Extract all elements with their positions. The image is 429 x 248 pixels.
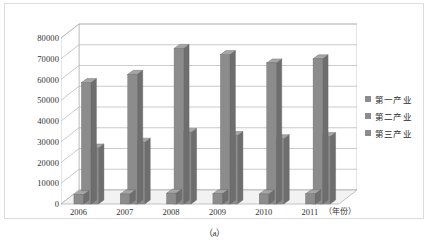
chart-frame: 0100002000030000400005000060000700008000…	[4, 3, 424, 219]
legend-swatch-icon	[365, 96, 371, 102]
legend-item-label: 第二产业	[375, 110, 412, 122]
bar	[267, 59, 282, 204]
y-axis-tick-label: 60000	[11, 76, 59, 84]
legend-item[interactable]: 第三产业	[365, 124, 429, 141]
y-axis-tick-label: 70000	[11, 55, 59, 63]
x-axis-tick-label: 2008	[163, 207, 180, 217]
bar	[220, 51, 235, 204]
bar	[167, 189, 182, 204]
y-axis-tick-label: 80000	[11, 34, 59, 42]
legend-item-label: 第三产业	[375, 127, 412, 139]
x-axis-tick-labels: 200620072008200920102011（年份）	[61, 207, 371, 223]
y-axis-tick-label: 10000	[11, 179, 59, 187]
legend-item-label: 第一产业	[375, 93, 412, 105]
x-axis-tick-label: 2006	[70, 207, 87, 217]
bar	[128, 70, 143, 204]
y-axis-tick-label: 40000	[11, 117, 59, 125]
bar	[174, 44, 189, 204]
y-axis-tick-label: 30000	[11, 138, 59, 146]
y-axis-tick-label: 0	[11, 200, 59, 208]
legend-swatch-icon	[365, 130, 371, 136]
plot-area	[61, 18, 357, 210]
y-axis-tick-labels: 0100002000030000400005000060000700008000…	[11, 18, 59, 208]
x-axis-tick-label: 2010	[255, 207, 272, 217]
x-axis-tick-label: 2009	[209, 207, 226, 217]
legend-item[interactable]: 第一产业	[365, 90, 429, 107]
figure-caption: （a）	[0, 226, 429, 239]
bar	[313, 55, 328, 204]
x-axis-unit-label: （年份）	[324, 207, 356, 217]
bar	[81, 79, 96, 204]
figure-container: 0100002000030000400005000060000700008000…	[0, 0, 429, 248]
chart-legend: 第一产业第二产业第三产业	[365, 90, 429, 141]
x-axis-tick-label: 2011	[302, 207, 319, 217]
legend-item[interactable]: 第二产业	[365, 107, 429, 124]
bar	[306, 190, 321, 204]
y-axis-tick-label: 20000	[11, 159, 59, 167]
x-axis-tick-label: 2007	[116, 207, 133, 217]
chart-walls	[61, 24, 357, 204]
y-axis-tick-label: 50000	[11, 96, 59, 104]
bar	[213, 190, 228, 204]
bar-chart-plot	[61, 18, 357, 210]
legend-swatch-icon	[365, 113, 371, 119]
